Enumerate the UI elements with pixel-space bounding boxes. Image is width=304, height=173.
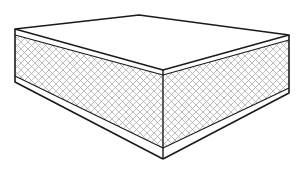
mattress-diagram (0, 0, 304, 173)
